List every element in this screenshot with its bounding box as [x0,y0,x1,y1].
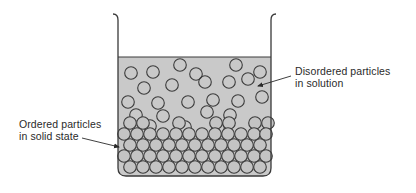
disordered-particles-label: Disordered particles in solution [295,65,390,89]
ordered-particle [254,161,267,174]
ordered-particle [228,161,241,174]
ordered-particle [202,161,215,174]
ordered-particle [241,161,254,174]
disordered-label-line1: Disordered particles [295,65,390,77]
ordered-label-line1: Ordered particles [19,118,101,130]
disordered-label-line2: in solution [295,77,390,89]
ordered-particles-label: Ordered particles in solid state [19,118,101,142]
ordered-particle [163,161,176,174]
ordered-particle [137,161,150,174]
ordered-particle [215,161,228,174]
ordered-label-line2: in solid state [19,130,101,142]
beaker-illustration [0,0,416,193]
ordered-particle [262,117,275,130]
ordered-particle [124,161,137,174]
ordered-particle [176,161,189,174]
diagram-canvas: Disordered particles in solution Ordered… [0,0,416,193]
ordered-particle [189,161,202,174]
ordered-particle [150,161,163,174]
